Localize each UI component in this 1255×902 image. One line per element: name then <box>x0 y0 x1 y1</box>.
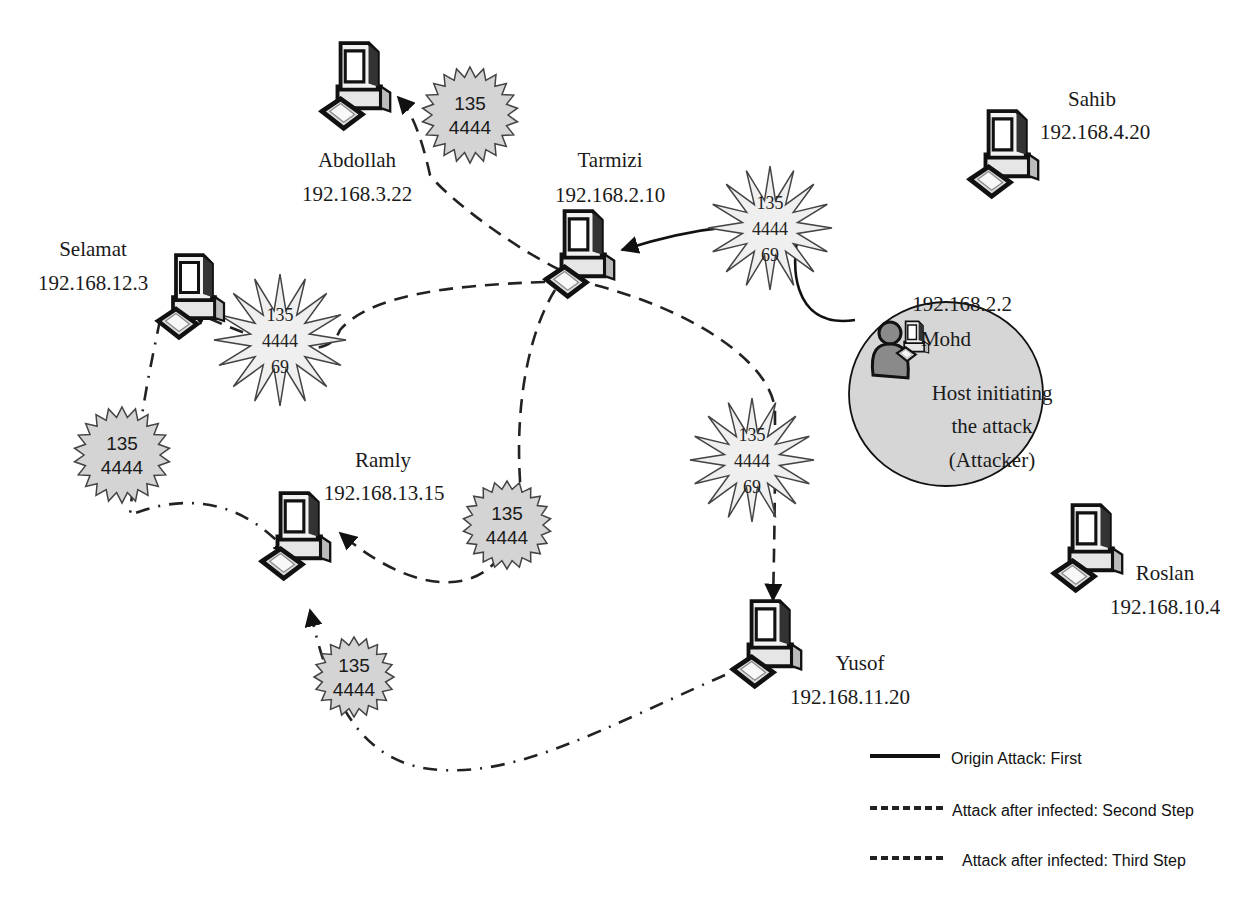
attack-propagation-diagram: Mohd 192.168.2.2 Host initiating the att… <box>0 0 1255 902</box>
burst-shape <box>314 637 394 717</box>
port-burst: 1354444 <box>423 67 518 163</box>
burst-port-label: 4444 <box>262 331 298 351</box>
computer-icon <box>158 255 224 338</box>
host-name: Ramly <box>355 448 411 472</box>
computer-icon <box>1054 505 1122 590</box>
host-tarmizi: Tarmizi 192.168.2.10 <box>546 148 665 296</box>
port-burst: 1354444 <box>75 407 170 503</box>
burst-port-label: 135 <box>454 93 486 114</box>
burst-port-label: 69 <box>761 245 779 265</box>
host-abdollah: Abdollah 192.168.3.22 <box>302 43 412 206</box>
attacker-caption-3: (Attacker) <box>949 448 1035 472</box>
burst-port-label: 135 <box>739 425 766 445</box>
host-ip: 192.168.4.20 <box>1040 120 1150 144</box>
host-ip: 192.168.2.10 <box>555 183 665 207</box>
legend-label-first: Origin Attack: First <box>951 750 1082 767</box>
burst-port-label: 4444 <box>486 527 529 548</box>
host-roslan: Roslan 192.168.10.4 <box>1054 505 1221 619</box>
host-yusof: Yusof 192.168.11.20 <box>733 601 910 709</box>
burst-shape <box>423 67 518 163</box>
burst-port-label: 69 <box>271 357 289 377</box>
port-burst: 135444469 <box>214 274 346 406</box>
host-ip: 192.168.12.3 <box>38 271 148 295</box>
host-ramly: Ramly 192.168.13.15 <box>262 448 444 578</box>
burst-port-label: 135 <box>491 503 523 524</box>
port-bursts: 1354444691354444135444469135444469135444… <box>75 67 833 717</box>
burst-port-label: 4444 <box>449 117 492 138</box>
attacker-name: Mohd <box>921 327 972 351</box>
host-name: Tarmizi <box>578 148 643 172</box>
host-ip: 192.168.3.22 <box>302 182 412 206</box>
legend-label-second: Attack after infected: Second Step <box>952 802 1194 819</box>
computer-icon <box>322 43 390 128</box>
host-selamat: Selamat 192.168.12.3 <box>38 237 224 338</box>
burst-port-label: 69 <box>743 477 761 497</box>
host-sahib: Sahib 192.168.4.20 <box>970 87 1150 196</box>
attacker-ip: 192.168.2.2 <box>912 292 1012 316</box>
computer-icon <box>546 211 614 296</box>
port-burst: 1354444 <box>314 637 394 717</box>
burst-port-label: 135 <box>267 305 294 325</box>
port-burst: 135444469 <box>690 398 814 522</box>
burst-shape <box>463 481 550 569</box>
attacker-caption-2: the attack <box>951 414 1033 438</box>
legend: Origin Attack: First Attack after infect… <box>870 750 1194 869</box>
burst-port-label: 4444 <box>734 451 770 471</box>
host-ip: 192.168.13.15 <box>324 481 445 505</box>
host-name: Selamat <box>59 237 127 261</box>
burst-port-label: 135 <box>757 193 784 213</box>
attacker-node: Mohd 192.168.2.2 Host initiating the att… <box>849 292 1053 486</box>
computer-icon <box>970 111 1038 196</box>
host-name: Yusof <box>835 651 884 675</box>
burst-port-label: 4444 <box>333 679 376 700</box>
host-ip: 192.168.11.20 <box>790 685 910 709</box>
legend-label-third: Attack after infected: Third Step <box>962 852 1186 869</box>
host-ip: 192.168.10.4 <box>1110 595 1221 619</box>
burst-port-label: 135 <box>106 433 138 454</box>
burst-port-label: 4444 <box>752 219 788 239</box>
host-name: Roslan <box>1136 561 1195 585</box>
diagram-canvas: Mohd 192.168.2.2 Host initiating the att… <box>0 0 1255 902</box>
attacker-caption-1: Host initiating <box>932 381 1053 405</box>
host-name: Abdollah <box>318 148 397 172</box>
burst-port-label: 135 <box>338 655 370 676</box>
port-burst: 1354444 <box>463 481 550 569</box>
host-name: Sahib <box>1068 87 1116 111</box>
burst-shape <box>75 407 170 503</box>
port-burst: 135444469 <box>708 166 832 290</box>
computer-icon <box>733 601 801 686</box>
burst-port-label: 4444 <box>101 457 144 478</box>
